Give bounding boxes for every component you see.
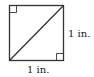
right-angle-mark-bottom-right bbox=[57, 54, 64, 61]
diagonal-line bbox=[10, 6, 64, 61]
right-side-label: 1 in. bbox=[68, 28, 90, 39]
square-diagram: 1 in. 1 in. bbox=[0, 0, 94, 77]
right-angle-mark-top-left bbox=[10, 6, 17, 13]
bottom-side-label: 1 in. bbox=[27, 64, 49, 75]
